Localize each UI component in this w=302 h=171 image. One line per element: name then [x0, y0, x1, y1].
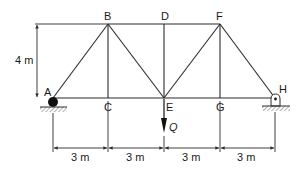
member-BE	[108, 24, 164, 98]
height-label: 4 m	[15, 54, 33, 66]
truss-members	[53, 24, 275, 98]
node-label-d: D	[161, 10, 169, 22]
load-label: Q	[169, 121, 178, 133]
node-label-e: E	[166, 101, 173, 113]
truss-diagram: 4 m Q 3 m 3 m 3 m 3 m A B C D E F	[0, 0, 302, 171]
node-label-a: A	[44, 86, 52, 98]
span-label-4: 3 m	[237, 151, 255, 163]
node-label-c: C	[104, 101, 112, 113]
member-AB	[53, 24, 108, 98]
support-a-roller	[40, 97, 67, 112]
node-label-f: F	[216, 10, 223, 22]
node-label-h: H	[279, 83, 287, 95]
support-h-pin	[262, 94, 290, 111]
member-FH	[220, 24, 275, 98]
node-label-g: G	[216, 101, 225, 113]
span-label-1: 3 m	[71, 151, 89, 163]
member-EF	[164, 24, 220, 98]
node-label-b: B	[104, 10, 111, 22]
span-label-3: 3 m	[182, 151, 200, 163]
span-label-2: 3 m	[126, 151, 144, 163]
